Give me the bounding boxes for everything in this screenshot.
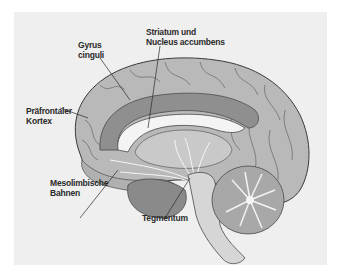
label-line: Tegmentum	[142, 213, 188, 223]
label-line: cinguli	[78, 50, 104, 60]
label-gyrus-cinguli: Gyrus cinguli	[78, 40, 104, 60]
label-line: Mesolimbische	[50, 178, 108, 188]
label-tegmentum: Tegmentum	[142, 213, 188, 223]
label-line: Gyrus	[78, 40, 104, 50]
label-mesolimbische-bahnen: Mesolimbische Bahnen	[50, 178, 108, 198]
label-striatum-nucleus-accumbens: Striatum und Nucleus accumbens	[146, 27, 225, 47]
label-line: Präfrontaler	[26, 106, 72, 116]
cerebellum	[212, 166, 284, 234]
label-line: Kortex	[26, 116, 72, 126]
label-praefrontaler-kortex: Präfrontaler Kortex	[26, 106, 72, 126]
label-line: Bahnen	[50, 188, 108, 198]
label-line: Nucleus accumbens	[146, 37, 225, 47]
label-line: Striatum und	[146, 27, 225, 37]
